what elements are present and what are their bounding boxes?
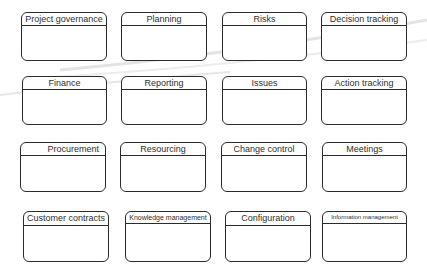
module-box-issues[interactable]: Issues	[222, 76, 307, 125]
module-box-knowledge-management[interactable]: Knowledge management	[125, 211, 211, 262]
module-box-procurement[interactable]: Procurement	[20, 142, 106, 192]
module-box-action-tracking[interactable]: Action tracking	[321, 76, 407, 125]
module-title: Resourcing	[121, 143, 205, 156]
module-body	[122, 26, 206, 60]
module-box-resourcing[interactable]: Resourcing	[120, 142, 206, 192]
module-body	[322, 26, 406, 60]
module-body	[322, 90, 406, 124]
module-body	[21, 156, 105, 191]
module-title: Change control	[222, 143, 306, 156]
module-title: Customer contracts	[24, 212, 108, 226]
module-body	[323, 156, 406, 191]
module-title: Meetings	[323, 143, 406, 156]
module-body	[223, 26, 306, 60]
module-title: Project governance	[22, 13, 106, 26]
module-title: Finance	[23, 77, 106, 90]
module-title: Planning	[122, 13, 206, 26]
module-body	[222, 156, 306, 191]
module-body	[22, 26, 106, 60]
module-title: Information management	[323, 212, 406, 224]
module-title: Reporting	[122, 77, 206, 90]
module-box-meetings[interactable]: Meetings	[322, 142, 407, 192]
module-body	[126, 224, 210, 261]
module-box-decision-tracking[interactable]: Decision tracking	[321, 12, 407, 61]
module-body	[121, 156, 205, 191]
module-box-information-management[interactable]: Information management	[322, 211, 407, 262]
module-box-planning[interactable]: Planning	[121, 12, 207, 61]
module-body	[323, 224, 406, 261]
module-title: Issues	[223, 77, 306, 90]
module-title: Configuration	[226, 212, 310, 226]
module-box-risks[interactable]: Risks	[222, 12, 307, 61]
module-box-configuration[interactable]: Configuration	[225, 211, 311, 262]
module-title: Procurement	[21, 143, 105, 156]
module-box-customer-contracts[interactable]: Customer contracts	[23, 211, 109, 262]
module-body	[23, 90, 106, 124]
module-body	[223, 90, 306, 124]
module-box-finance[interactable]: Finance	[22, 76, 107, 125]
module-title: Risks	[223, 13, 306, 26]
module-title: Action tracking	[322, 77, 406, 90]
module-title: Knowledge management	[126, 212, 210, 224]
module-box-change-control[interactable]: Change control	[221, 142, 307, 192]
module-body	[24, 226, 108, 261]
module-box-project-governance[interactable]: Project governance	[21, 12, 107, 61]
module-body	[122, 90, 206, 124]
module-body	[226, 226, 310, 261]
module-title: Decision tracking	[322, 13, 406, 26]
module-box-reporting[interactable]: Reporting	[121, 76, 207, 125]
